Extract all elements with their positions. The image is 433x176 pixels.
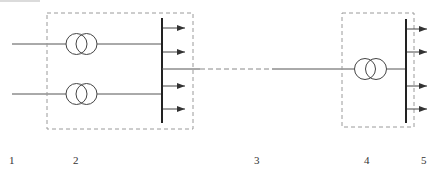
load-arrows-right xyxy=(407,29,427,109)
transformer-icon xyxy=(66,84,97,105)
label-1: 1 xyxy=(9,155,15,166)
substation-right-boundary xyxy=(342,13,414,127)
incoming-lines xyxy=(12,44,66,94)
substation-left xyxy=(47,13,193,129)
power-system-diagram xyxy=(0,0,433,176)
transformer-icon xyxy=(355,59,387,80)
transformer-icon xyxy=(66,34,97,55)
label-2: 2 xyxy=(73,155,79,166)
label-4: 4 xyxy=(364,155,370,166)
substation-left-boundary xyxy=(47,13,193,129)
label-3: 3 xyxy=(254,155,260,166)
label-5: 5 xyxy=(421,155,427,166)
substation-right xyxy=(342,13,427,127)
